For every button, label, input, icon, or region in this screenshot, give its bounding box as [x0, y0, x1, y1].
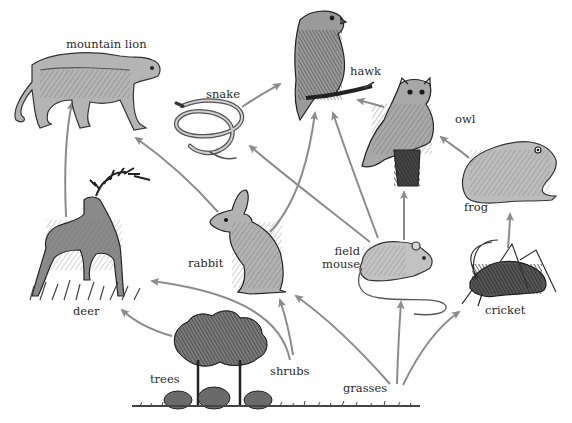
cricket-illustration	[462, 240, 556, 306]
label-mountain-lion: mountain lion	[66, 38, 147, 51]
label-snake: snake	[206, 88, 240, 101]
rabbit-illustration	[210, 190, 286, 294]
arrow-grasses-to-mouse	[397, 302, 401, 384]
arrow-deer-to-mountain-lion	[65, 103, 72, 217]
label-cricket: cricket	[485, 304, 525, 317]
deer-illustration	[30, 168, 150, 300]
label-deer: deer	[73, 305, 99, 318]
trees-illustration	[164, 311, 272, 409]
arrow-cricket-to-frog	[508, 214, 510, 248]
label-frog: frog	[464, 201, 488, 214]
label-field-mouse: field mouse	[320, 245, 360, 271]
arrow-grasses-to-rabbit	[296, 296, 390, 384]
label-trees: trees	[150, 373, 180, 386]
frog-illustration	[463, 142, 557, 203]
arrows	[65, 84, 510, 385]
label-hawk: hawk	[350, 65, 381, 78]
arrow-rabbit-to-hawk	[270, 113, 315, 232]
label-field-mouse-line2: mouse	[320, 258, 360, 271]
owl-illustration	[362, 78, 433, 186]
label-shrubs: shrubs	[270, 365, 309, 378]
label-owl: owl	[455, 113, 475, 126]
arrow-trees-to-deer	[122, 310, 172, 336]
field-mouse-illustration	[359, 242, 447, 315]
arrow-frog-to-owl	[441, 137, 469, 158]
label-grasses: grasses	[343, 382, 387, 395]
arrow-snake-to-hawk	[242, 84, 280, 107]
arrow-grasses-to-cricket	[403, 312, 459, 385]
food-web-diagram: mountain lion hawk snake owl frog deer r…	[0, 0, 572, 423]
label-rabbit: rabbit	[188, 257, 223, 270]
mountain-lion-illustration	[15, 53, 160, 130]
snake-illustration	[176, 101, 242, 159]
arrow-rabbit-to-mountain-lion	[136, 138, 218, 212]
